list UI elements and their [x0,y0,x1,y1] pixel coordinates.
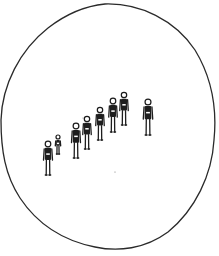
figure-arm [109,106,110,117]
figure-belt [85,128,88,130]
figure-head-icon [84,116,89,121]
speck [114,171,115,172]
figure-arm [104,115,105,126]
figure-head-icon [56,135,60,139]
figure-head-icon [121,92,126,97]
figure-belt [98,119,101,121]
figure-head-icon [45,141,51,147]
figure-arm [91,124,92,135]
figure-head-icon [97,107,102,112]
human-figure [143,99,152,135]
human-figure [55,135,60,154]
human-figure [96,107,105,140]
figure-arm [143,107,144,119]
human-figure [109,98,118,132]
human-figure [83,116,92,149]
human-figure [44,141,53,175]
figure-arm [83,124,84,135]
figures-group [44,92,153,175]
figure-arm [128,100,129,111]
figure-head-icon [145,99,151,105]
human-figure [72,123,81,158]
figure-arm [117,106,118,117]
speck [83,118,84,119]
figure-arm [96,115,97,126]
figure-belt [46,153,50,155]
figure-arm [44,149,45,160]
figure-arm [120,100,121,111]
figure-belt [111,110,114,112]
human-figure [120,92,129,125]
figure-belt [146,112,150,114]
figure-arm [72,131,73,143]
oval-boundary [1,4,215,249]
drawing-canvas [0,0,219,256]
figure-head-icon [110,98,116,104]
figure-arm [52,149,53,160]
figure-arm [80,131,81,143]
figure-head-icon [73,123,79,129]
figure-arm [152,107,153,119]
figure-belt [122,104,125,106]
figure-belt [57,143,59,145]
figure-belt [74,136,78,138]
